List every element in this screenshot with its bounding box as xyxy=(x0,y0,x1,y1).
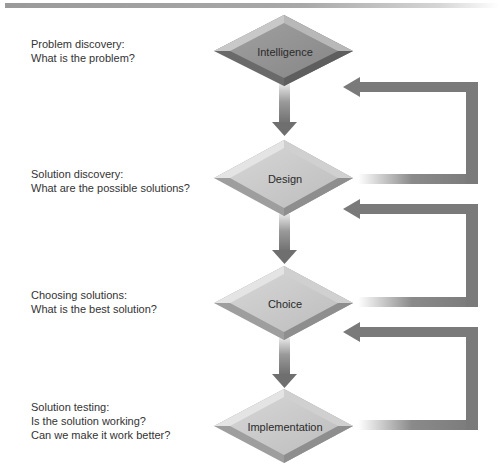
down-arrow-choice-implementation xyxy=(272,338,297,388)
down-arrow-design-choice xyxy=(272,214,297,264)
feedback-loop-design-intelligence xyxy=(343,77,478,184)
stage-label-design: Design xyxy=(215,173,355,185)
feedback-loop-implementation-choice xyxy=(343,322,478,430)
down-arrow-intelligence-design xyxy=(272,84,297,136)
stage-label-intelligence: Intelligence xyxy=(215,46,355,58)
stage-label-choice: Choice xyxy=(215,298,355,310)
flow-diagram xyxy=(0,0,499,467)
feedback-loop-choice-design xyxy=(343,199,478,307)
stage-label-implementation: Implementation xyxy=(215,421,355,433)
